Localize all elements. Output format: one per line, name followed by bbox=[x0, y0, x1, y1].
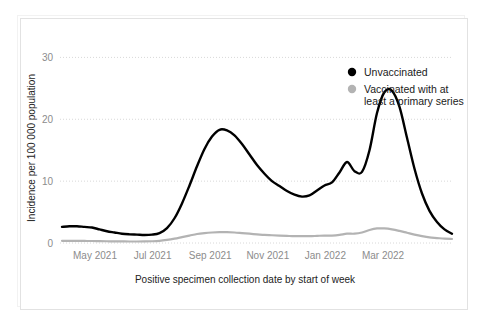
legend-marker-vaccinated bbox=[348, 85, 356, 93]
series-line-vaccinated bbox=[62, 228, 452, 241]
y-tick-label: 20 bbox=[42, 114, 54, 125]
y-axis-title: Incidence per 100 000 population bbox=[26, 74, 37, 222]
line-chart-plot: 0102030 May 2021Jul 2021Sep 2021Nov 2021… bbox=[0, 0, 490, 329]
x-tick-label: Sep 2021 bbox=[189, 250, 232, 261]
x-tick-labels-group: May 2021Jul 2021Sep 2021Nov 2021Jan 2022… bbox=[73, 250, 405, 261]
x-tick-label: May 2021 bbox=[73, 250, 117, 261]
x-tick-label: Mar 2022 bbox=[362, 250, 405, 261]
x-axis-title: Positive specimen collection date by sta… bbox=[135, 274, 356, 285]
x-tick-label: Jan 2022 bbox=[305, 250, 347, 261]
y-tick-labels-group: 0102030 bbox=[42, 52, 54, 249]
series-line-unvaccinated bbox=[62, 89, 452, 235]
x-tick-label: Nov 2021 bbox=[246, 250, 289, 261]
series-group bbox=[62, 89, 452, 241]
x-tick-label: Jul 2021 bbox=[134, 250, 172, 261]
y-tick-label: 30 bbox=[42, 52, 54, 63]
legend-label-vaccinated-line1: Vaccinated with at bbox=[364, 83, 449, 95]
legend-label-unvaccinated: Unvaccinated bbox=[364, 66, 428, 78]
legend-label-vaccinated-line2: least a primary series bbox=[364, 95, 464, 107]
chart-legend: Unvaccinated Vaccinated with at least a … bbox=[348, 66, 464, 107]
y-tick-label: 10 bbox=[42, 176, 54, 187]
chart-figure: 0102030 May 2021Jul 2021Sep 2021Nov 2021… bbox=[0, 0, 490, 329]
y-tick-label: 0 bbox=[47, 238, 53, 249]
legend-marker-unvaccinated bbox=[348, 68, 356, 76]
